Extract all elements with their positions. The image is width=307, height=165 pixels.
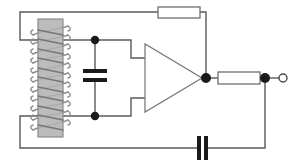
shunt-capacitor-top-plate — [83, 69, 107, 73]
output-tap-node — [260, 73, 270, 83]
output-resistor — [218, 72, 260, 84]
feedback-resistor-body — [158, 7, 200, 18]
shunt-capacitor — [83, 69, 107, 82]
coupling-capacitor-right-plate — [204, 136, 208, 160]
circuit-diagram — [0, 0, 307, 165]
output-resistor-body — [218, 72, 260, 84]
upper-input-node — [91, 36, 99, 44]
output-terminal[interactable] — [279, 74, 287, 82]
feedback-right-branch — [200, 12, 206, 78]
feedback-resistor — [158, 7, 200, 18]
noninverting-input-wire — [95, 40, 145, 58]
schematic-canvas — [0, 0, 307, 165]
amplifier-output-node — [201, 73, 211, 83]
shunt-capacitor-bottom-plate — [83, 78, 107, 82]
inverting-input-wire — [95, 98, 145, 116]
coil-inductor — [31, 19, 71, 137]
bottom-return-right — [206, 78, 265, 148]
opamp-triangle-body — [145, 44, 202, 112]
operational-amplifier — [145, 44, 202, 112]
coupling-capacitor-left-plate — [197, 136, 201, 160]
coupling-capacitor — [197, 136, 208, 160]
lower-input-node — [91, 112, 99, 120]
